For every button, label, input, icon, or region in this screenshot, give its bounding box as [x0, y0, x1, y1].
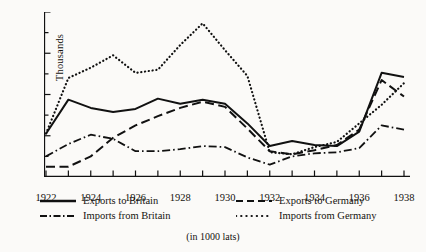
- chart-canvas: [44, 12, 410, 177]
- chart-legend: Exports to BritainExports to GermanyImpo…: [40, 195, 390, 221]
- data-series-layer: [46, 23, 404, 166]
- axis-lines: [44, 12, 410, 177]
- legend-item: Imports from Britain: [40, 210, 236, 221]
- legend-item: Exports to Germany: [236, 195, 396, 206]
- legend-label: Imports from Germany: [279, 210, 376, 221]
- legend-label: Exports to Germany: [279, 195, 364, 206]
- imports-germany-swatch: [236, 211, 272, 221]
- chart-caption: (in 1000 lats): [0, 231, 426, 242]
- legend-label: Imports from Britain: [83, 210, 171, 221]
- plot-area: Thousands 04080120160 192219241926192819…: [44, 12, 410, 177]
- legend-item: Imports from Germany: [236, 210, 396, 221]
- exports-britain-swatch: [40, 196, 76, 206]
- legend-label: Exports to Britain: [83, 195, 158, 206]
- y-axis-tick-marks: [45, 12, 51, 177]
- imports-britain-swatch: [40, 211, 76, 221]
- exports-germany-swatch: [236, 196, 272, 206]
- x-axis-tick-marks: [46, 171, 404, 177]
- y-axis-title: Thousands: [54, 13, 65, 103]
- legend-item: Exports to Britain: [40, 195, 236, 206]
- series-line-exports-to-germany: [46, 80, 404, 167]
- chart-figure: Thousands 04080120160 192219241926192819…: [0, 0, 426, 252]
